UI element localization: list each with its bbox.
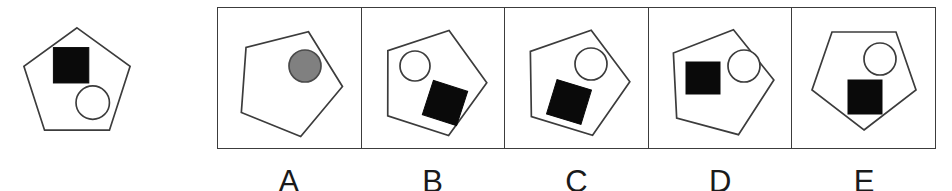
option-b-pentagon-outline	[369, 14, 499, 141]
option-a-gray-circle	[289, 50, 321, 82]
option-d-black-square	[686, 62, 720, 94]
option-c-white-circle	[575, 48, 607, 80]
option-label-a: A	[217, 149, 361, 191]
option-cell-a[interactable]	[218, 8, 362, 148]
option-cell-c[interactable]	[505, 8, 649, 148]
option-e-svg	[804, 18, 924, 138]
option-a-figure	[229, 18, 349, 138]
option-d-pentagon-outline	[657, 16, 783, 140]
option-b-white-circle	[400, 51, 430, 81]
option-d-white-circle	[728, 50, 760, 82]
option-label-d: D	[648, 149, 792, 191]
option-label-e: E	[792, 149, 936, 191]
option-e-white-circle	[864, 43, 896, 75]
stem-black-square	[53, 48, 88, 83]
option-e-black-square	[848, 80, 882, 114]
option-c-figure	[516, 18, 636, 138]
options-strip	[217, 7, 936, 149]
stem-pentagon-svg	[18, 22, 136, 140]
option-a-svg	[229, 18, 349, 138]
option-labels-row: A B C D E	[217, 149, 936, 191]
option-a-pentagon-outline	[223, 12, 357, 144]
figural-reasoning-item: A B C D E	[0, 0, 952, 191]
option-b-svg	[373, 18, 493, 138]
option-cell-e[interactable]	[792, 8, 935, 148]
option-b-figure	[373, 18, 493, 138]
option-c-svg	[516, 18, 636, 138]
option-cell-b[interactable]	[362, 8, 506, 148]
option-d-figure	[660, 18, 780, 138]
option-cell-d[interactable]	[649, 8, 793, 148]
option-label-c: C	[505, 149, 649, 191]
stem-white-circle	[76, 86, 109, 119]
stem-figure	[18, 22, 136, 140]
option-e-figure	[804, 18, 924, 138]
option-d-svg	[660, 18, 780, 138]
option-label-b: B	[361, 149, 505, 191]
